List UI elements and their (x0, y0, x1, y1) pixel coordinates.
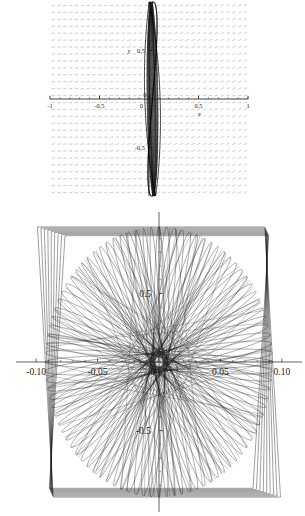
top-xtick-label: 0 (140, 102, 143, 109)
top-phase-portrait-canvas: -1-0.500.510.50-0.5xy (0, 0, 305, 205)
top-ytick-label: 0 (143, 91, 146, 98)
bottom-ytick-label: 0 (151, 365, 156, 375)
top-phase-portrait-figure: -1-0.500.510.50-0.5xy (0, 0, 305, 205)
bottom-axes-layer (16, 212, 302, 512)
bottom-xtick-label: 0.05 (212, 367, 229, 377)
figure-page: -1-0.500.510.50-0.5xy -0.10-0.0500.050.1… (0, 0, 305, 516)
bottom-xtick-label: -0.10 (26, 367, 46, 377)
top-ytick-label: -0.5 (135, 144, 145, 151)
top-xtick-label: 1 (246, 102, 249, 109)
bottom-xtick-label: -0.05 (88, 367, 108, 377)
bottom-ytick-label: -0.5 (136, 426, 151, 436)
top-ytick-label: 0.5 (137, 47, 145, 54)
bottom-xtick-label: 0.10 (274, 367, 291, 377)
top-trajectory-layer (144, 2, 160, 196)
bottom-trajectory-figure: -0.10-0.0500.050.100.50-0.5 (0, 208, 305, 513)
top-xtick-label: -1 (47, 102, 52, 109)
top-xtick-label: 0.5 (195, 102, 203, 109)
top-yaxis-name: y (127, 47, 131, 54)
top-xaxis-name: x (197, 110, 201, 117)
bottom-trajectory-canvas: -0.10-0.0500.050.100.50-0.5 (0, 208, 305, 513)
top-xtick-label: -0.5 (94, 102, 104, 109)
bottom-ytick-label: 0.5 (139, 289, 151, 299)
